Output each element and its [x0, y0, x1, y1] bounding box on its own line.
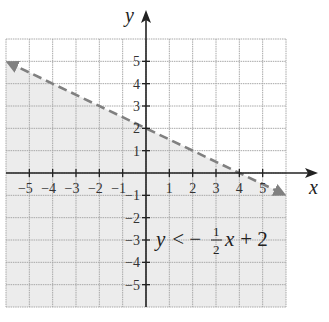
x-tick-label: 5 [259, 181, 266, 196]
y-tick-label: −2 [125, 211, 140, 226]
y-tick-label: 5 [133, 54, 140, 69]
x-tick-label: −3 [65, 181, 80, 196]
y-tick-label: 4 [133, 77, 140, 92]
inequality-rest: + 2 [235, 227, 268, 251]
x-tick-label: 2 [189, 181, 196, 196]
inequality-graph: −5−4−3−2−112345−5−4−3−2−112345 y x y < −… [0, 0, 329, 322]
inequality-variable: x [224, 227, 235, 251]
x-tick-label: −2 [88, 181, 103, 196]
x-tick-label: −5 [18, 181, 33, 196]
y-tick-label: 1 [133, 144, 140, 159]
y-tick-label: 3 [133, 99, 140, 114]
x-tick-label: 3 [213, 181, 220, 196]
x-tick-label: 4 [236, 181, 243, 196]
y-tick-label: −5 [125, 278, 140, 293]
x-tick-label: −1 [111, 181, 126, 196]
y-axis-label: y [123, 4, 134, 27]
fraction-denominator: 2 [213, 242, 220, 257]
inequality-operator: < − [167, 227, 201, 251]
y-tick-label: −3 [125, 233, 140, 248]
y-tick-label: −1 [125, 188, 140, 203]
x-tick-label: 1 [166, 181, 173, 196]
x-axis-label: x [308, 176, 318, 198]
x-tick-label: −4 [41, 181, 56, 196]
y-tick-label: 2 [133, 121, 140, 136]
inequality-lhs: y [154, 227, 166, 251]
y-tick-label: −4 [125, 255, 140, 270]
fraction-numerator: 1 [213, 224, 220, 239]
